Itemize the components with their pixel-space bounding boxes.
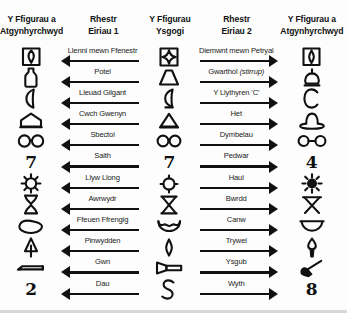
arrow-head-right-icon	[269, 245, 278, 257]
word-label: Lleuad Gilgant	[62, 88, 143, 97]
word-label: Dau	[62, 279, 143, 288]
numeral-four-icon: 4	[277, 152, 347, 173]
word-label: Canw	[196, 215, 277, 224]
table-body: Llenni mewn Ffenestr Diemwnt mewn Petrya…	[0, 46, 347, 300]
table-row: Llyw Llong Haul	[0, 173, 347, 194]
arrow-left-11: Gwn	[62, 258, 143, 279]
arrow-line	[200, 123, 273, 125]
word-label: Potel	[62, 67, 143, 76]
header-line-1: Rhestr	[90, 14, 117, 26]
crescent-moon-icon	[0, 88, 62, 109]
arrow-head-right-icon	[269, 182, 278, 194]
arrow-head-right-icon	[269, 203, 278, 215]
arrow-head-left-icon	[61, 203, 70, 215]
arrow-line	[200, 271, 273, 273]
arrow-line	[200, 165, 273, 167]
table-row: 2 Dau Wyth 8	[0, 279, 347, 300]
crescent-with-line-icon	[143, 88, 196, 109]
square-with-leaf-icon	[0, 46, 62, 67]
arrow-left-2: Potel	[62, 67, 143, 88]
bottle-icon	[0, 67, 62, 88]
arrow-right-4: Het	[196, 110, 277, 131]
arrow-head-right-icon	[269, 118, 278, 130]
diamond-icon	[143, 237, 196, 258]
arrow-line	[66, 102, 139, 104]
arrow-head-left-icon	[61, 76, 70, 88]
header-line-2: Eiriau 1	[88, 26, 118, 38]
arrow-right-6: Pedwar	[196, 152, 277, 173]
table-row: 7 Saith 7 Pedwar 4	[0, 152, 347, 173]
word-label: Ysgub	[196, 257, 277, 266]
table-row: Llenni mewn Ffenestr Diemwnt mewn Petrya…	[0, 46, 347, 67]
arrow-right-7: Haul	[196, 173, 277, 194]
arrow-left-3: Lleuad Gilgant	[62, 88, 143, 109]
table-header: Y Ffigurau a Atgynhyrchwyd Rhestr Eiriau…	[0, 14, 347, 44]
arrow-right-5: Dymbelau	[196, 131, 277, 152]
arrow-head-right-icon	[269, 288, 278, 300]
arrow-head-left-icon	[61, 55, 70, 67]
arrow-head-right-icon	[269, 139, 278, 151]
table-row: Sbectol Dymbelau	[0, 131, 347, 152]
broom-icon	[277, 258, 347, 279]
arrow-head-left-icon	[61, 161, 70, 173]
table-row: Ffeuen Ffrengig Canw	[0, 216, 347, 237]
header-line-1: Rhestr	[223, 14, 250, 26]
word-label: Awrwydr	[62, 194, 143, 203]
header-line-1: Y Ffigurau a	[288, 14, 336, 26]
arrow-head-right-icon	[269, 55, 278, 67]
ships-wheel-icon	[0, 173, 62, 194]
arrow-line	[200, 60, 273, 62]
word-label: Pinwydden	[62, 236, 143, 245]
word-label: Diemwnt mewn Petryal	[196, 46, 277, 55]
arrow-right-9: Canw	[196, 216, 277, 237]
arrow-head-left-icon	[61, 224, 70, 236]
stirrup-icon	[277, 67, 347, 88]
word-label: Gwarthol (stirrup)	[196, 67, 277, 76]
header-line-2: Atgynhyrchwyd	[280, 26, 343, 38]
square-with-diamond-icon	[277, 46, 347, 67]
arrow-head-left-icon	[61, 288, 70, 300]
word-label: Dymbelau	[196, 130, 277, 139]
rifle-icon	[0, 258, 62, 279]
word-label: Trywel	[196, 236, 277, 245]
letter-c-icon	[277, 88, 347, 109]
arrow-line	[66, 271, 139, 273]
s-curve-icon	[143, 279, 196, 300]
arrow-right-2: Gwarthol (stirrup)	[196, 67, 277, 88]
arrow-left-10: Pinwydden	[62, 237, 143, 258]
arrow-line	[200, 250, 273, 252]
kidney-bean-icon	[0, 216, 62, 237]
word-label: Wyth	[196, 279, 277, 288]
arrow-head-left-icon	[61, 245, 70, 257]
arrow-head-left-icon	[61, 182, 70, 194]
funnel-icon	[143, 258, 196, 279]
table-row: Potel Gwarthol (stirrup)	[0, 67, 347, 88]
arrow-left-4: Cwch Gwenyn	[62, 110, 143, 131]
arrow-line	[66, 208, 139, 210]
header-word-list-2: Rhestr Eiriau 2	[196, 14, 276, 44]
arrow-right-12: Wyth	[196, 279, 277, 300]
beehive-icon	[0, 110, 62, 131]
arrow-line	[66, 293, 139, 295]
arrow-head-left-icon	[61, 97, 70, 109]
arrow-line	[200, 102, 273, 104]
header-reproduced-figures-left: Y Ffigurau a Atgynhyrchwyd	[0, 14, 63, 44]
arrow-line	[66, 250, 139, 252]
header-stimulus-figures: Y Ffigurau Ysgogi	[143, 14, 196, 44]
arrow-head-right-icon	[269, 161, 278, 173]
arrow-line	[200, 144, 273, 146]
arrow-right-8: Bwrdd	[196, 194, 277, 215]
arrow-line	[66, 60, 139, 62]
arrow-left-8: Awrwydr	[62, 194, 143, 215]
word-label: Pedwar	[196, 151, 277, 160]
trapezoid-icon	[143, 67, 196, 88]
two-circles-icon	[143, 131, 196, 152]
arrow-line	[66, 123, 139, 125]
word-label: Llenni mewn Ffenestr	[62, 46, 143, 55]
header-word-list-1: Rhestr Eiriau 1	[63, 14, 143, 44]
square-with-four-point-star-icon	[143, 46, 196, 67]
word-label: Haul	[196, 173, 277, 182]
table-icon	[277, 194, 347, 215]
arrow-right-1: Diemwnt mewn Petryal	[196, 46, 277, 67]
arrow-line	[66, 229, 139, 231]
